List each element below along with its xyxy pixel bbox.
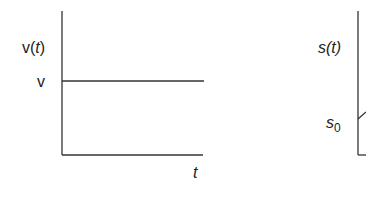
velocity-y-label: v(t): [22, 39, 45, 56]
velocity-plot: v(t) v t: [22, 11, 204, 181]
velocity-level-label: v: [37, 73, 45, 90]
position-y-label: s(t): [318, 39, 341, 56]
initial-position-label: s0: [326, 114, 341, 135]
velocity-x-label: t: [193, 164, 198, 181]
position-plot: s(t) s0: [318, 11, 366, 155]
position-line: [358, 112, 366, 119]
diagram-canvas: v(t) v t s(t) s0: [0, 0, 366, 199]
